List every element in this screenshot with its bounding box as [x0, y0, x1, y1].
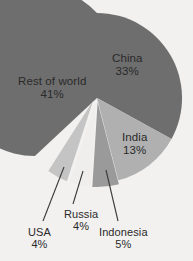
leader-line-usa [43, 167, 64, 221]
pie-chart: China 33% India 13% Rest of world 41% US… [0, 0, 193, 261]
pie-label-india-name: India [122, 131, 147, 144]
pie-label-russia-value: 4% [64, 220, 98, 232]
pie-label-indonesia-value: 5% [99, 238, 148, 250]
pie-label-china-value: 33% [112, 65, 143, 78]
pie-label-usa-name: USA [28, 226, 51, 238]
pie-label-usa: USA 4% [28, 226, 51, 251]
pie-label-india: India 13% [122, 131, 147, 157]
pie-label-rest-of-world-value: 41% [18, 88, 86, 101]
pie-label-indonesia: Indonesia 5% [99, 226, 148, 251]
pie-label-russia: Russia 4% [64, 208, 98, 233]
pie-label-china: China 33% [112, 52, 143, 78]
pie-label-usa-value: 4% [28, 238, 51, 250]
pie-label-rest-of-world-name: Rest of world [18, 75, 86, 88]
pie-label-india-value: 13% [122, 144, 147, 157]
pie-label-china-name: China [112, 52, 143, 65]
pie-label-rest-of-world: Rest of world 41% [18, 75, 86, 101]
pie-label-indonesia-name: Indonesia [99, 226, 148, 238]
pie-label-russia-name: Russia [64, 208, 98, 220]
